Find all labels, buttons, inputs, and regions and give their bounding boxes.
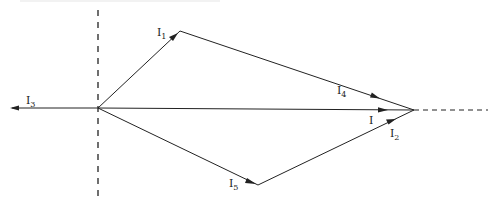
- svg-text:I5: I5: [229, 177, 238, 192]
- vector-I: I: [98, 107, 414, 127]
- arrowhead-icon: [386, 119, 396, 125]
- svg-text:I2: I2: [390, 127, 399, 142]
- vector-I4: I4: [180, 31, 414, 110]
- arrowhead-icon: [378, 107, 388, 112]
- phasor-diagram: I3 I I1 I4 I5 I2: [0, 0, 490, 201]
- vector-I2: I2: [258, 110, 414, 185]
- svg-text:I3: I3: [26, 94, 35, 109]
- vector-I1: I1: [98, 26, 180, 108]
- vector-I5: I5: [98, 108, 258, 192]
- arrowhead-icon: [245, 178, 256, 184]
- arrowhead-icon: [370, 93, 380, 99]
- svg-text:I: I: [369, 114, 373, 127]
- vector-I3: I3: [10, 94, 98, 111]
- svg-text:I1: I1: [157, 26, 166, 41]
- arrowhead-icon: [10, 106, 19, 111]
